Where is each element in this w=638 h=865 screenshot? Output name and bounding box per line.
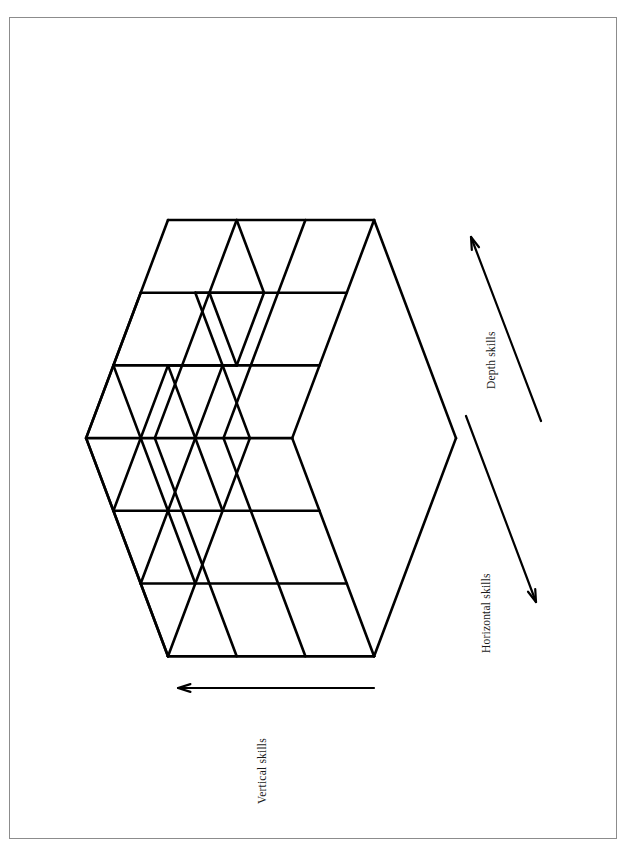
- arrow-depth-shaft: [471, 237, 541, 421]
- cube-edge: [237, 293, 264, 366]
- arrow-horizontal: [466, 416, 536, 602]
- cube-edge: [237, 220, 264, 293]
- cube-edge: [224, 438, 306, 656]
- axis-label-vertical-skills: Vertical skills: [256, 738, 268, 804]
- axis-label-horizontal-skills: Horizontal skills: [480, 573, 492, 653]
- axis-label-depth-skills: Depth skills: [485, 331, 497, 389]
- cube-edge: [374, 220, 456, 438]
- cube-wireframe: [86, 220, 456, 656]
- cube-edge: [224, 220, 306, 438]
- cube-edge: [209, 293, 236, 366]
- cube-edge: [374, 438, 456, 656]
- cube-edge: [292, 438, 374, 656]
- arrow-depth: [471, 237, 541, 421]
- arrow-vertical: [178, 684, 374, 692]
- figure-page: Vertical skills Horizontal skills Depth …: [0, 0, 638, 865]
- cube-edge: [292, 220, 374, 438]
- arrow-horizontal-shaft: [466, 416, 536, 602]
- skills-cube-figure: [0, 0, 638, 865]
- cube-edge: [155, 438, 237, 656]
